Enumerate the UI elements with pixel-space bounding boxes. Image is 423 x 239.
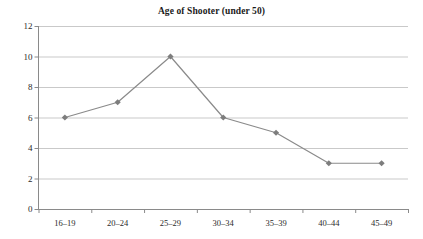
y-axis-tick-label: 2	[9, 174, 33, 184]
data-series-line	[65, 57, 382, 164]
x-axis-tick-label: 40–44	[302, 218, 355, 228]
y-axis-tick-label: 8	[9, 82, 33, 92]
x-axis-tick-label: 25–29	[144, 218, 197, 228]
data-point-marker	[379, 160, 385, 166]
x-axis-tick-label: 45–49	[355, 218, 408, 228]
x-axis-tick-label: 20–24	[91, 218, 144, 228]
x-axis-tick-label: 35–39	[250, 218, 303, 228]
y-axis-tick-label: 4	[9, 143, 33, 153]
x-axis-tick-label: 16–19	[39, 218, 92, 228]
y-axis-tick-label: 12	[9, 21, 33, 31]
line-chart: Age of Shooter (under 50) 024681012 16–1…	[0, 0, 423, 239]
data-point-marker	[62, 114, 68, 120]
data-point-marker	[273, 130, 279, 136]
x-axis-tick-label: 30–34	[197, 218, 250, 228]
y-axis-tick-label: 0	[9, 204, 33, 214]
data-point-markers	[62, 53, 385, 166]
plot-area	[0, 0, 423, 239]
data-point-marker	[326, 160, 332, 166]
y-axis-tick-label: 10	[9, 52, 33, 62]
y-axis-ticks	[35, 27, 39, 210]
y-axis-tick-label: 6	[9, 113, 33, 123]
